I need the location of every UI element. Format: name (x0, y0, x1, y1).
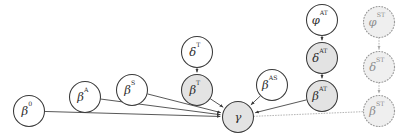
node-betaT[interactable]: βT (182, 75, 213, 106)
node-phiAT[interactable]: φAT (307, 5, 338, 36)
node-betaS[interactable]: βS (117, 75, 148, 106)
node-betaAT[interactable]: βAT (307, 81, 338, 112)
edge-betaAT-to-gamma (255, 100, 306, 113)
node-betaAS[interactable]: βAS (257, 70, 288, 101)
node-betaST[interactable]: βST (364, 96, 395, 127)
diagram-canvas: β0βAβSδTβTγβASφATδATβATφSTδSTβST (0, 0, 407, 140)
node-label-gamma: γ (235, 110, 242, 124)
edge-betaT-to-gamma (210, 99, 223, 108)
edge-beta0-to-gamma (45, 111, 220, 116)
node-deltaAT[interactable]: δAT (307, 43, 338, 74)
node-gamma[interactable]: γ (223, 102, 254, 133)
node-deltaST[interactable]: δST (364, 52, 395, 83)
graph-svg: β0βAβSδTβTγβASφATδATβATφSTδSTβST (0, 0, 407, 140)
node-deltaT[interactable]: δT (182, 37, 213, 68)
node-beta0[interactable]: β0 (14, 96, 45, 127)
node-layer: β0βAβSδTβTγβASφATδATβATφSTδSTβST (14, 5, 395, 133)
edge-betaAS-to-gamma (251, 96, 261, 105)
node-phiST[interactable]: φST (364, 7, 395, 38)
edge-gamma-to-betaST (254, 112, 363, 117)
node-betaA[interactable]: βA (70, 82, 101, 113)
